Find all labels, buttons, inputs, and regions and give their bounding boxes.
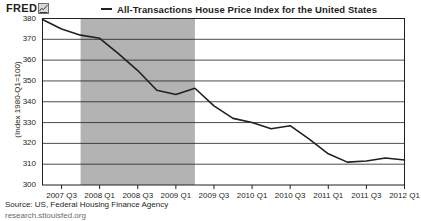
y-tick-label: 380 (14, 15, 36, 23)
x-axis-ticks (62, 185, 405, 189)
y-tick-label: 360 (14, 56, 36, 64)
x-tick-label: 2012 Q1 (382, 191, 421, 200)
y-tick-label: 320 (14, 139, 36, 147)
chart-canvas (0, 0, 421, 221)
y-tick-label: 300 (14, 181, 36, 189)
y-tick-label: 370 (14, 35, 36, 43)
source-note: Source: US, Federal Housing Finance Agen… (5, 200, 168, 209)
y-tick-label: 330 (14, 119, 36, 127)
chart-plot-area: (Index 1980-Q1=100) 30031032033034035036… (0, 0, 421, 221)
source-url[interactable]: research.stlouisfed.org (5, 211, 86, 220)
y-tick-label: 340 (14, 98, 36, 106)
y-tick-label: 350 (14, 77, 36, 85)
y-tick-label: 310 (14, 160, 36, 168)
